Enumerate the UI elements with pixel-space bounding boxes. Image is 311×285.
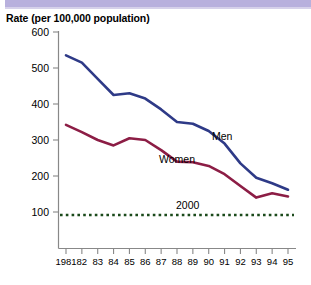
series-line-men bbox=[66, 55, 288, 189]
x-tick-label: 87 bbox=[156, 256, 167, 267]
y-tick-label: 200 bbox=[31, 170, 49, 182]
series-label-women: Women bbox=[159, 153, 195, 165]
y-axis-tick-labels: 100200300400500600 bbox=[31, 26, 49, 218]
y-axis-ticks bbox=[53, 32, 59, 212]
y-tick-label: 500 bbox=[31, 62, 49, 74]
x-tick-label: 89 bbox=[188, 256, 199, 267]
x-tick-label: 90 bbox=[203, 256, 214, 267]
x-tick-label: 93 bbox=[251, 256, 262, 267]
x-tick-label: 95 bbox=[283, 256, 294, 267]
chart-page: Rate (per 100,000 population) 1002003004… bbox=[0, 0, 311, 285]
x-tick-label: 94 bbox=[267, 256, 278, 267]
x-tick-label: 85 bbox=[124, 256, 135, 267]
x-tick-label: 86 bbox=[140, 256, 151, 267]
chart-plot-area: 100200300400500600 198182838485868788899… bbox=[0, 0, 311, 285]
y-tick-label: 300 bbox=[31, 134, 49, 146]
y-tick-label: 100 bbox=[31, 206, 49, 218]
x-tick-label: 82 bbox=[77, 256, 88, 267]
target-line-label: 2000 bbox=[176, 199, 200, 211]
y-tick-label: 600 bbox=[31, 26, 49, 38]
x-tick-label: 91 bbox=[219, 256, 230, 267]
line-chart: 100200300400500600 198182838485868788899… bbox=[0, 0, 311, 285]
series-label-men: Men bbox=[212, 130, 233, 142]
x-tick-label: 83 bbox=[92, 256, 103, 267]
x-tick-label: 84 bbox=[108, 256, 119, 267]
x-tick-label: 88 bbox=[172, 256, 183, 267]
x-axis-ticks bbox=[66, 249, 288, 255]
y-tick-label: 400 bbox=[31, 98, 49, 110]
x-tick-label: 92 bbox=[235, 256, 246, 267]
x-axis-tick-labels: 19818283848586878889909192939495 bbox=[55, 256, 293, 267]
x-tick-label: 1981 bbox=[55, 256, 76, 267]
